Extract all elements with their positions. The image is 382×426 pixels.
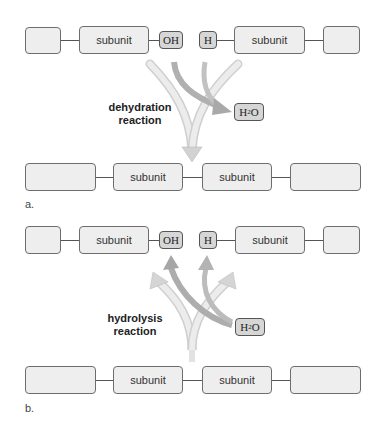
arrow-head-up-icon [163, 255, 179, 270]
arrow-head-down-icon [182, 147, 202, 162]
arrow-head-right-icon [212, 98, 232, 115]
reaction-arrows [0, 0, 382, 426]
arrow-head-up-icon [198, 255, 214, 270]
split-arrow-icon [160, 283, 226, 362]
